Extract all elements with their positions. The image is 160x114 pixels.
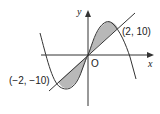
y-axis-arrow-icon — [85, 10, 91, 17]
shaded-region-right — [88, 22, 118, 55]
x-axis-label: x — [147, 58, 153, 69]
origin-label: O — [91, 58, 99, 69]
graph: y x O (2, 10) (−2, −10) — [0, 0, 160, 114]
line-curve — [49, 13, 135, 91]
point-label-positive: (2, 10) — [122, 26, 151, 37]
y-axis-label: y — [76, 6, 82, 17]
point-label-negative: (−2, −10) — [9, 75, 50, 86]
